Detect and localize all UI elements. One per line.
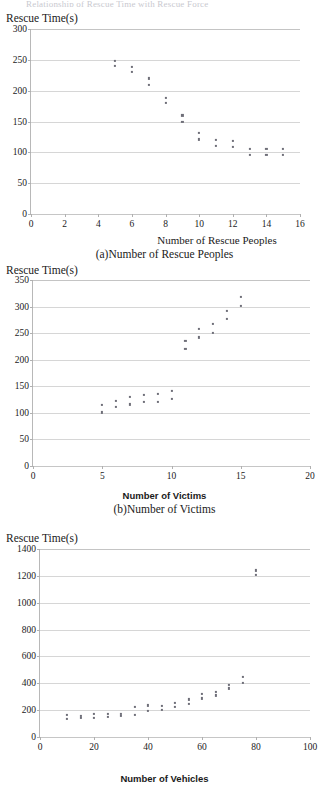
x-tick-label: 10	[167, 471, 177, 481]
scatter-point	[147, 704, 149, 706]
figure-b: Rescue Time(s) 0501001502002503003500510…	[0, 264, 329, 522]
y-tick-label: 1400	[17, 544, 36, 554]
gridline	[33, 280, 310, 281]
scatter-point	[240, 305, 242, 307]
y-tick-label: 800	[22, 625, 36, 635]
plot-canvas-a: 0501001502002503000246810121416	[30, 29, 300, 215]
y-tick-label: 250	[15, 328, 29, 338]
y-tick-mark	[28, 152, 31, 153]
scatter-point	[241, 676, 243, 678]
x-tick-mark	[31, 214, 32, 217]
y-tick-mark	[28, 91, 31, 92]
x-tick-mark	[256, 737, 257, 740]
y-tick-mark	[37, 683, 40, 684]
x-tick-mark	[233, 214, 234, 217]
gridline	[40, 656, 310, 657]
x-tick-mark	[300, 214, 301, 217]
plot-canvas-b: 05010015020025030035005101520	[32, 280, 310, 467]
scatter-point	[248, 154, 250, 156]
x-tick-label: 20	[89, 742, 99, 752]
scatter-point	[212, 323, 214, 325]
plot-canvas-c: 0200400600800100012001400020406080100	[39, 549, 310, 738]
scatter-point	[198, 336, 200, 338]
scatter-point	[129, 403, 131, 405]
y-tick-mark	[30, 360, 33, 361]
scatter-point	[129, 396, 131, 398]
y-tick-label: 0	[31, 732, 36, 742]
scatter-point	[131, 71, 133, 73]
gridline	[31, 29, 300, 30]
scatter-point	[147, 710, 149, 712]
x-tick-label: 80	[251, 742, 261, 752]
y-tick-label: 0	[24, 461, 29, 471]
y-tick-label: 150	[13, 117, 27, 127]
gridline	[33, 307, 310, 308]
scatter-point	[157, 401, 159, 403]
plot-area-c: 0200400600800100012001400020406080100	[39, 549, 310, 738]
gridline	[40, 710, 310, 711]
scatter-point	[170, 390, 172, 392]
gridline	[33, 360, 310, 361]
x-tick-label: 0	[38, 742, 43, 752]
y-tick-label: 50	[18, 178, 28, 188]
scatter-point	[184, 347, 186, 349]
scatter-point	[255, 574, 257, 576]
gridline	[31, 183, 300, 184]
x-tick-mark	[102, 466, 103, 469]
y-tick-label: 400	[22, 678, 36, 688]
scatter-point	[114, 60, 116, 62]
x-tick-mark	[172, 466, 173, 469]
y-tick-mark	[37, 656, 40, 657]
y-tick-mark	[28, 60, 31, 61]
scatter-point	[101, 404, 103, 406]
scatter-point	[201, 693, 203, 695]
scatter-point	[101, 411, 103, 413]
x-tick-label: 8	[163, 219, 168, 229]
plot-area-a: 0501001502002503000246810121416	[30, 29, 300, 215]
gridline	[33, 439, 310, 440]
scatter-point	[164, 97, 166, 99]
x-tick-label: 0	[29, 219, 34, 229]
x-tick-mark	[98, 214, 99, 217]
gridline	[31, 152, 300, 153]
figure-c: Rescue Time(s) 0200400600800100012001400…	[0, 522, 329, 788]
scatter-point	[79, 717, 81, 719]
scatter-point	[174, 702, 176, 704]
gridline	[33, 413, 310, 414]
x-tick-label: 60	[197, 742, 207, 752]
figure-page: Relationship of Rescue Time with Rescue …	[0, 0, 329, 788]
scatter-point	[187, 698, 189, 700]
x-tick-label: 100	[303, 742, 317, 752]
scatter-point	[133, 714, 135, 716]
y-tick-mark	[28, 122, 31, 123]
y-tick-label: 200	[13, 86, 27, 96]
x-tick-mark	[199, 214, 200, 217]
scatter-point	[66, 714, 68, 716]
gridline	[40, 549, 310, 550]
scatter-point	[226, 318, 228, 320]
scatter-point	[160, 709, 162, 711]
scatter-point	[198, 328, 200, 330]
scatter-point	[212, 332, 214, 334]
y-tick-mark	[30, 439, 33, 440]
scatter-point	[265, 154, 267, 156]
y-tick-label: 100	[13, 147, 27, 157]
y-tick-label: 300	[13, 24, 27, 34]
scatter-point	[201, 697, 203, 699]
scatter-point	[198, 138, 200, 140]
scatter-point	[215, 139, 217, 141]
x-tick-label: 10	[194, 219, 204, 229]
y-tick-mark	[37, 549, 40, 550]
x-tick-label: 12	[228, 219, 238, 229]
gridline	[31, 60, 300, 61]
y-tick-mark	[30, 307, 33, 308]
y-tick-label: 0	[22, 209, 27, 219]
x-tick-mark	[40, 737, 41, 740]
y-tick-label: 150	[15, 381, 29, 391]
scatter-point	[232, 140, 234, 142]
x-tick-label: 20	[305, 471, 315, 481]
scatter-point	[214, 694, 216, 696]
plot-area-b: 05010015020025030035005101520	[32, 280, 310, 467]
y-tick-mark	[37, 576, 40, 577]
scatter-point	[106, 713, 108, 715]
